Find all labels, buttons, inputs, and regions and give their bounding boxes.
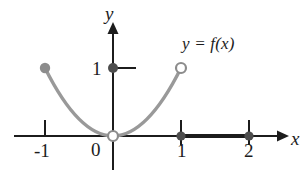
x-tick-label-2: 2 (244, 141, 254, 160)
origin-label: 0 (91, 140, 101, 159)
y-axis-label: y (105, 4, 113, 23)
x-axis-label: x (291, 129, 299, 148)
open-point-1-1 (176, 63, 186, 73)
x-tick-label-1: 1 (177, 141, 187, 160)
function-label: y = f(x) (182, 35, 235, 52)
function-graph-figure: y x 1 0 -1 1 2 y = f(x) (0, 0, 306, 174)
y-tick-label-1: 1 (92, 59, 102, 78)
x-tick-label-minus-1: -1 (34, 141, 50, 160)
open-point-origin (108, 131, 118, 141)
closed-point-0-1 (108, 63, 118, 73)
closed-point-minus1-1 (40, 63, 50, 73)
x-axis-arrowhead (277, 131, 289, 142)
